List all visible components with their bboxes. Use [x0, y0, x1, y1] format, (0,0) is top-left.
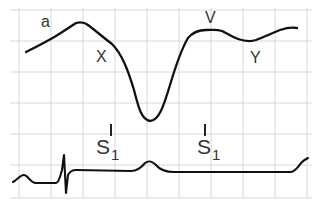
jvp-diagram: a X V Y S 1 S 1	[0, 0, 324, 212]
label-s1-second-sub: 1	[212, 146, 220, 163]
label-s1-first-sub: 1	[111, 146, 119, 163]
label-s1-first: S	[96, 135, 110, 158]
ecg-trace	[13, 155, 308, 193]
label-x: X	[96, 48, 107, 65]
label-s1-second: S	[197, 135, 211, 158]
label-v: V	[205, 9, 216, 26]
label-a: a	[41, 13, 50, 30]
label-y: Y	[250, 49, 261, 66]
